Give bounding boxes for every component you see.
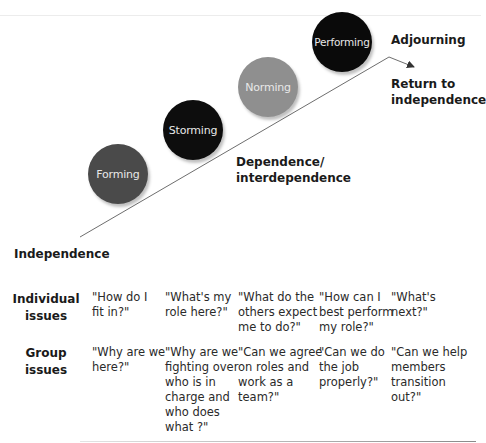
group-cell-adjourning: "Can we help members transition out?" <box>391 345 467 405</box>
group-cell-forming: "Why are we here?" <box>92 345 165 375</box>
independence-label: Independence <box>14 246 110 262</box>
stage-norming-label: Norming <box>245 81 291 94</box>
group-cell-storming: "Why are we fighting over who is in char… <box>165 345 238 435</box>
stage-performing-circle: Performing <box>312 12 372 72</box>
group-cell-norming: "Can we agree on roles and work as a tea… <box>238 345 322 405</box>
stage-storming-label: Storming <box>169 124 217 137</box>
adjourning-label: Adjourning <box>391 32 465 48</box>
individual-cell-forming: "How do I fit in?" <box>92 290 147 320</box>
individual-cell-norming: "What do the others expect me to do?" <box>238 290 317 335</box>
dependence-interdependence-label: Dependence/ interdependence <box>236 154 351 186</box>
group-cell-performing: "Can we do the job properly?" <box>319 345 385 390</box>
individual-cell-adjourning: "What's next?" <box>391 290 436 320</box>
stage-forming-label: Forming <box>96 168 139 181</box>
stage-forming-circle: Forming <box>88 144 148 204</box>
individual-cell-performing: "How can I best perform my role?" <box>319 290 393 335</box>
row-header-group-issues: Group issues <box>11 345 81 379</box>
stage-storming-circle: Storming <box>163 100 223 160</box>
stage-norming-circle: Norming <box>238 57 298 117</box>
stage-performing-label: Performing <box>314 36 369 48</box>
return-to-independence-label: Return to independence <box>391 76 486 108</box>
individual-cell-storming: "What's my role here?" <box>165 290 231 320</box>
bottom-divider <box>80 441 476 442</box>
row-header-individual-issues: Individual issues <box>11 291 81 325</box>
